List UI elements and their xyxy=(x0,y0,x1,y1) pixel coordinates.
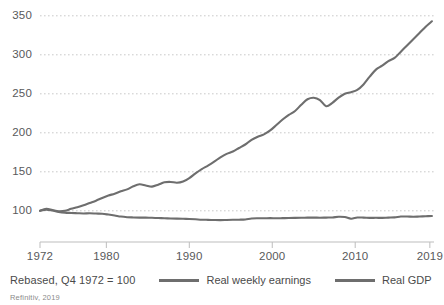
x-tick-label-1972: 1972 xyxy=(17,250,63,262)
legend-label-gdp: Real GDP xyxy=(382,274,432,286)
series-line-2 xyxy=(40,21,432,211)
data-series-group xyxy=(40,21,432,220)
rebase-note: Rebased, Q4 1972 = 100 xyxy=(10,274,135,286)
legend-label-earnings: Real weekly earnings xyxy=(206,274,311,286)
y-tick-label-100: 100 xyxy=(2,204,32,216)
legend-item-real-weekly-earnings[interactable]: Real weekly earnings xyxy=(159,274,311,286)
x-axis-ticks-group xyxy=(40,242,430,248)
legend-swatch-icon-earnings xyxy=(159,279,199,282)
chart-footer: Rebased, Q4 1972 = 100 Real weekly earni… xyxy=(10,274,432,286)
legend-swatch-icon-gdp xyxy=(335,279,375,282)
x-tick-label-2000: 2000 xyxy=(249,250,295,262)
x-tick-label-2010: 2010 xyxy=(332,250,378,262)
gridlines-group xyxy=(40,16,434,211)
y-tick-label-200: 200 xyxy=(2,126,32,138)
x-tick-label-1980: 1980 xyxy=(83,250,129,262)
x-tick-label-1990: 1990 xyxy=(166,250,212,262)
y-tick-label-150: 150 xyxy=(2,165,32,177)
y-tick-label-300: 300 xyxy=(2,48,32,60)
legend-item-real-gdp[interactable]: Real GDP xyxy=(335,274,432,286)
y-tick-label-250: 250 xyxy=(2,87,32,99)
x-tick-label-2019: 2019 xyxy=(407,250,444,262)
y-tick-label-350: 350 xyxy=(2,9,32,21)
source-attribution: Refinitiv, 2019 xyxy=(10,293,60,302)
chart-container: 100150200250300350 197219801990200020102… xyxy=(0,0,444,305)
